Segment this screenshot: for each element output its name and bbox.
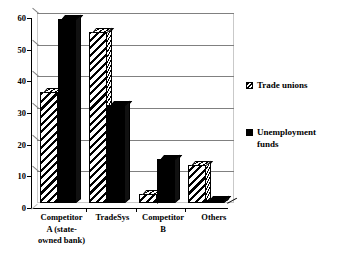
x-axis-category-labels: CompetitorA (state-owned bank)TradeSysCo… — [31, 212, 241, 258]
bar-side — [76, 15, 81, 203]
y-axis-tick-label: 20 — [18, 140, 27, 149]
legend-item-unemployment-funds: Unemployment funds — [246, 127, 316, 150]
bar-side — [175, 154, 180, 203]
x-axis-category-label: Others — [185, 212, 242, 224]
bar-face — [157, 159, 175, 203]
bar — [157, 159, 175, 203]
x-axis-category-label: TradeSys — [84, 212, 141, 224]
y-axis-tick-label: 50 — [18, 45, 27, 54]
hatched-swatch-icon — [246, 82, 253, 89]
bars-layer — [37, 13, 234, 209]
bar — [206, 200, 224, 203]
bar-face — [89, 32, 107, 203]
x-axis-line — [31, 208, 228, 209]
bar-face — [188, 165, 206, 203]
x-axis-category-label: CompetitorA (state-owned bank) — [33, 212, 90, 247]
bar-group — [40, 13, 81, 203]
axis-depth-right — [227, 203, 236, 209]
x-axis-category-label: CompetitorB — [135, 212, 192, 235]
y-axis-tick-label: 40 — [18, 77, 27, 86]
legend-item-label: Unemployment funds — [257, 127, 316, 150]
y-axis-tick-label: 30 — [18, 109, 27, 118]
bar-face — [40, 92, 58, 203]
bar-face — [58, 19, 76, 203]
bar — [89, 32, 107, 203]
bar-group — [188, 13, 229, 203]
legend-item-trade-unions: Trade unions — [246, 80, 308, 92]
bar — [139, 194, 157, 204]
plot-area: 0102030405060 — [31, 13, 234, 209]
bar — [188, 165, 206, 203]
bar-side — [125, 101, 130, 203]
bar — [58, 19, 76, 203]
axis-depth-left — [31, 203, 38, 209]
bar-face — [107, 105, 125, 203]
bar — [107, 105, 125, 203]
bar-side — [206, 161, 211, 203]
y-axis-tick-label: 60 — [18, 14, 27, 23]
bar-group — [89, 13, 130, 203]
legend-item-label: Trade unions — [257, 80, 308, 92]
bar-group — [139, 13, 180, 203]
y-axis-tick-label: 0 — [22, 204, 26, 213]
y-axis-tick-label: 10 — [18, 172, 27, 181]
bar — [40, 92, 58, 203]
solid-swatch-icon — [246, 129, 253, 136]
bar-chart: 0102030405060 CompetitorA (state-owned b… — [0, 0, 356, 259]
y-axis-line — [31, 18, 32, 209]
